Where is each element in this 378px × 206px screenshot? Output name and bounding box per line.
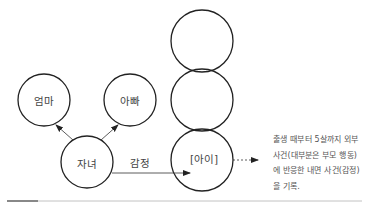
- stack-middle-circle: [171, 69, 233, 131]
- note-text: 출생 때부터 5살까지 외부 사건(대부분은 부모 행동) 에 반응한 내면 사…: [273, 132, 377, 194]
- note-line: 에 반응한 내면 사건(감정): [273, 163, 377, 179]
- stack-top-circle: [171, 10, 233, 72]
- note-line: 을 기록.: [273, 179, 377, 195]
- mom-label: 엄마: [34, 93, 54, 108]
- arrow-child-to-dad: [101, 125, 118, 140]
- dad-label: 아빠: [120, 93, 140, 108]
- child-label: 자녀: [77, 156, 97, 171]
- child-self-label: [아이]: [190, 151, 218, 166]
- note-line: 사건(대부분은 부모 행동): [273, 148, 377, 164]
- arrow-child-to-mom: [56, 125, 73, 140]
- note-line: 출생 때부터 5살까지 외부: [273, 132, 377, 148]
- emotion-edge-label: 감정: [130, 155, 150, 170]
